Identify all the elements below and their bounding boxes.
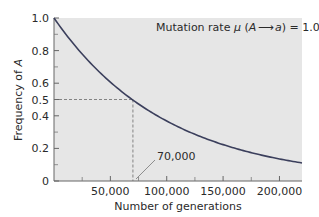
y-tick-label: 0 bbox=[42, 175, 49, 188]
x-tick-label: 100,000 bbox=[144, 185, 190, 198]
y-tick-label: 0.4 bbox=[32, 110, 50, 123]
y-tick-label: 0.5 bbox=[32, 94, 50, 107]
y-tick-label: 0.8 bbox=[32, 45, 50, 58]
x-tick-label: 50,000 bbox=[91, 185, 130, 198]
y-axis-title: Frequency of A bbox=[12, 59, 25, 141]
callout-70000: 70,000 bbox=[157, 150, 196, 163]
y-tick-label: 1.0 bbox=[32, 12, 50, 25]
mutation-rate-label: Mutation rate μ (A⟶a) = 1.0 × 10-5 bbox=[156, 20, 319, 34]
x-tick-label: 150,000 bbox=[200, 185, 246, 198]
x-axis-title: Number of generations bbox=[114, 200, 242, 213]
chart: 00.20.40.50.60.81.0 50,000100,000150,000… bbox=[0, 0, 319, 217]
y-tick-label: 0.6 bbox=[32, 77, 50, 90]
x-tick-label: 200,000 bbox=[257, 185, 303, 198]
y-tick-label: 0.2 bbox=[32, 142, 50, 155]
